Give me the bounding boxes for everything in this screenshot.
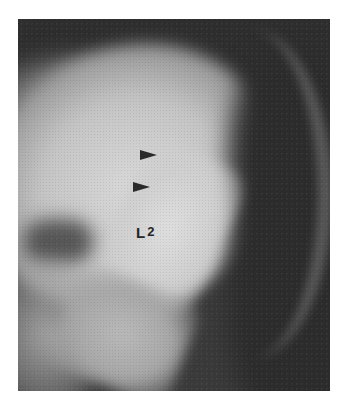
radiograph-image: [18, 19, 330, 391]
arrowhead-upper-icon: [140, 150, 157, 160]
arrowhead-lower-icon: [133, 182, 150, 192]
vertebra-label-letter: L: [136, 224, 146, 241]
film-grain: [18, 19, 330, 391]
vertebra-label-number: 2: [147, 224, 155, 239]
vertebra-label: L2: [136, 224, 155, 241]
